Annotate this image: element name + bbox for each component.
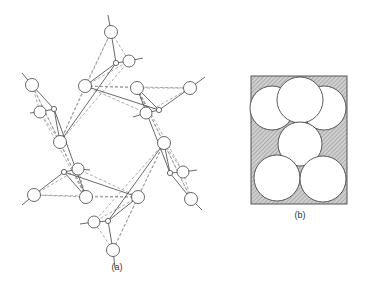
silicon-atom <box>167 170 172 175</box>
apical-oxygen-atom <box>107 244 120 257</box>
side-oxygen-atom <box>88 216 100 228</box>
si-o-bond <box>54 109 86 197</box>
sphere <box>254 155 300 201</box>
silicon-atom <box>61 169 66 174</box>
apical-oxygen-atom <box>26 79 39 92</box>
tetrahedron-edge <box>113 197 138 250</box>
tetrahedron-edge <box>60 61 129 142</box>
tetrahedron-edge <box>60 86 85 142</box>
si-o-bond <box>60 63 116 142</box>
bridging-oxygen-atom <box>80 191 93 204</box>
tetrahedron-edge <box>34 169 78 195</box>
bridging-oxygen-atom <box>158 137 171 150</box>
bridging-oxygen-atom <box>54 136 67 149</box>
tetrahedron-edge <box>137 88 183 172</box>
bridging-oxygen-atom <box>131 82 144 95</box>
silicon-atom <box>105 218 110 223</box>
silicate-ring-diagram <box>0 0 367 297</box>
apical-oxygen-atom <box>105 26 118 39</box>
atoms <box>26 26 198 257</box>
si-o-bonds <box>22 15 205 268</box>
tetrahedron-edge <box>94 143 164 222</box>
figure-b-sphere-packing <box>250 76 347 204</box>
sphere <box>277 77 323 123</box>
side-oxygen-atom <box>72 163 84 175</box>
sphere <box>300 156 346 202</box>
apical-oxygen-atom <box>184 82 197 95</box>
si-o-bond <box>85 86 159 110</box>
side-oxygen-atom <box>123 55 135 67</box>
side-oxygen-atom <box>34 106 46 118</box>
side-oxygen-atom <box>140 107 152 119</box>
tetrahedron-edge <box>85 32 111 86</box>
si-o-bond <box>137 88 170 173</box>
bridging-oxygen-atom <box>79 80 92 93</box>
figure-b-label: (b) <box>295 210 306 220</box>
si-o-bond <box>108 143 164 221</box>
apical-oxygen-atom <box>28 189 41 202</box>
silicon-atom <box>51 106 56 111</box>
apical-oxygen-atom <box>185 193 198 206</box>
figure-a-ring <box>22 15 205 268</box>
side-oxygen-atom <box>177 166 189 178</box>
silicon-atom <box>156 107 161 112</box>
silicon-atom <box>113 60 118 65</box>
figure-a-label: (a) <box>112 262 123 272</box>
bridging-oxygen-atom <box>132 191 145 204</box>
tetrahedron-edge <box>146 88 190 113</box>
tetrahedron-edge <box>40 112 86 197</box>
